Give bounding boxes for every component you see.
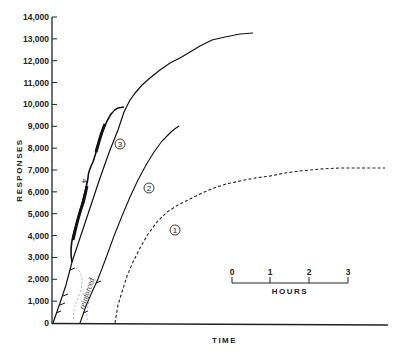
curve-label-1: 1 (170, 225, 180, 235)
curve-label-3: 3 (115, 139, 125, 149)
y-tick-label: 2,000 (28, 274, 50, 284)
y-tick-label: 0 (44, 318, 49, 328)
svg-text:1: 1 (173, 226, 178, 235)
y-tick-label: 1,000 (28, 296, 50, 306)
svg-text:1: 1 (268, 267, 273, 277)
y-tick-label: 4,000 (28, 231, 50, 241)
y-tick-label: 8,000 (28, 143, 50, 153)
curve-4-thick-segment-lower (73, 186, 87, 240)
y-tick-label: 11,000 (23, 78, 49, 88)
curve-1 (115, 168, 385, 323)
y-tick-label: 13,000 (23, 34, 49, 44)
y-axis-title: RESPONSES (15, 138, 24, 201)
y-tick-label: 3,000 (28, 252, 50, 262)
y-tick-label: 7,000 (28, 165, 50, 175)
reinforced-annotation: reinforced (77, 276, 96, 311)
svg-text:0: 0 (230, 267, 235, 277)
y-tick-label: 6,000 (28, 187, 50, 197)
svg-text:HOURS: HOURS (272, 287, 308, 296)
curve-label-4: 4 (80, 179, 89, 184)
hours-scale-bar: 0 1 2 3 HOURS (230, 267, 351, 296)
y-tick-label: 10,000 (23, 99, 49, 109)
y-tick-label: 5,000 (28, 209, 50, 219)
curve-label-2: 2 (144, 183, 154, 193)
svg-text:2: 2 (307, 267, 312, 277)
x-axis-title: TIME (212, 336, 237, 345)
y-tick-label: 9,000 (28, 121, 50, 131)
svg-text:3: 3 (118, 140, 123, 149)
y-tick-label: 12,000 (23, 56, 49, 66)
svg-text:3: 3 (346, 267, 351, 277)
curve-4-thick-segment-upper (96, 124, 105, 152)
chart-figure: 01,0002,0003,0004,0005,0006,0007,0008,00… (0, 0, 401, 358)
svg-text:2: 2 (147, 184, 152, 193)
x-axis (52, 324, 388, 326)
y-tick-label: 14,000 (23, 12, 49, 22)
